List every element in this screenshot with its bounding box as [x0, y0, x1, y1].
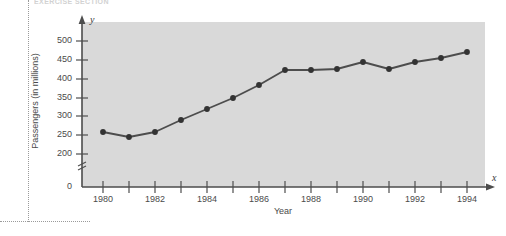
x-tick-label-1988: 1988: [294, 194, 328, 204]
x-axis-arrow-icon: [486, 184, 495, 191]
data-point: [282, 67, 288, 73]
axes-group: [78, 15, 495, 190]
y-tick-label-350: 350: [44, 92, 72, 102]
x-variable-symbol: x: [492, 172, 496, 183]
x-axis-title: Year: [238, 206, 328, 216]
x-tick-label-1994: 1994: [450, 194, 484, 204]
y-tick-label-400: 400: [44, 73, 72, 83]
y-tick-label-500: 500: [44, 35, 72, 45]
x-tick-label-1986: 1986: [242, 194, 276, 204]
y-tick-label-300: 300: [44, 110, 72, 120]
x-tick-label-1984: 1984: [190, 194, 224, 204]
data-point: [230, 95, 236, 101]
data-line: [103, 52, 467, 137]
data-point: [152, 129, 158, 135]
x-tick-label-1980: 1980: [86, 194, 120, 204]
data-point: [256, 82, 262, 88]
data-point: [386, 66, 392, 72]
y-axis-arrow-icon: [79, 15, 86, 24]
data-point: [360, 59, 366, 65]
x-tick-label-1992: 1992: [398, 194, 432, 204]
y-tick-label-200: 200: [44, 148, 72, 158]
data-point: [100, 129, 106, 135]
data-point: [438, 55, 444, 61]
data-point: [412, 59, 418, 65]
data-markers: [100, 49, 470, 140]
data-point: [178, 117, 184, 123]
data-point: [308, 67, 314, 73]
y-variable-symbol: y: [90, 14, 94, 25]
x-tick-label-1982: 1982: [138, 194, 172, 204]
y-tick-label-450: 450: [44, 54, 72, 64]
y-tick-label-250: 250: [44, 129, 72, 139]
figure-frame: EXERCISE SECTION: [0, 0, 506, 236]
data-point: [126, 134, 132, 140]
data-point: [334, 66, 340, 72]
x-tick-label-1990: 1990: [346, 194, 380, 204]
data-point: [204, 106, 210, 112]
y-axis-title: Passengers (in millions): [30, 41, 40, 161]
y-tick-label-0: 0: [44, 181, 72, 191]
data-point: [464, 49, 470, 55]
